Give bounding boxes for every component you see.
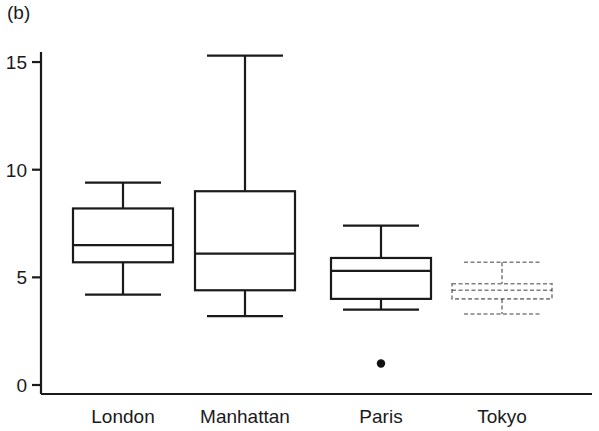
boxplot-figure: (b) 051015 LondonManhattanParisTokyo	[0, 0, 599, 431]
x-axis-category-label-paris: Paris	[359, 406, 402, 427]
box-plot-tokyo	[452, 262, 552, 314]
box-iqr-rect	[331, 258, 431, 299]
axes-group	[41, 52, 592, 394]
box-iqr-rect	[195, 191, 295, 290]
outlier-point	[377, 359, 385, 367]
x-axis-category-label-london: London	[91, 406, 154, 427]
box-iqr-rect	[73, 208, 173, 262]
y-axis-tick-label: 5	[16, 267, 27, 288]
y-axis-tick-label: 10	[6, 160, 27, 181]
box-plot-london	[73, 183, 173, 295]
boxplot-canvas: 051015 LondonManhattanParisTokyo	[0, 0, 599, 431]
y-axis-tick-label: 0	[16, 375, 27, 396]
category-labels-group: LondonManhattanParisTokyo	[91, 406, 527, 427]
x-axis-category-label-manhattan: Manhattan	[200, 406, 290, 427]
box-iqr-rect	[452, 284, 552, 299]
box-series-group	[73, 56, 552, 368]
y-axis-ticks-group: 051015	[6, 52, 41, 396]
y-axis-tick-label: 15	[6, 52, 27, 73]
box-plot-manhattan	[195, 56, 295, 317]
x-axis-category-label-tokyo: Tokyo	[477, 406, 527, 427]
box-plot-paris	[331, 226, 431, 368]
